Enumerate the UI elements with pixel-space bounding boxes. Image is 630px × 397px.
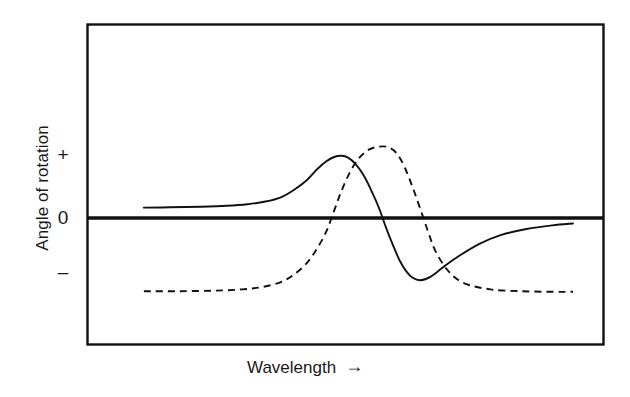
plot-area xyxy=(0,0,630,397)
figure: Angle of rotation + 0 – Wavelength→ xyxy=(0,0,630,397)
axis-frame xyxy=(88,25,604,345)
